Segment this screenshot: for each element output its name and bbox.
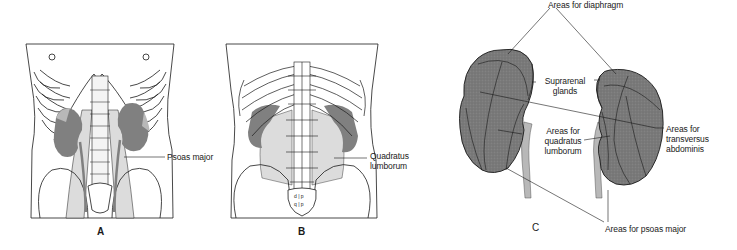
label-areas-quadratus-1: Areas for bbox=[540, 126, 586, 136]
panel-c bbox=[460, 8, 665, 222]
panel-b: d | p q | p bbox=[226, 44, 378, 218]
label-areas-transversus-3: abdominis bbox=[666, 144, 704, 154]
label-areas-transversus-2: transversus bbox=[666, 134, 709, 144]
label-areas-transversus-1: Areas for bbox=[666, 124, 700, 134]
label-psoas-major: Psoas major bbox=[167, 152, 213, 162]
panel-letter-b: B bbox=[298, 226, 305, 237]
panel-letter-a: A bbox=[97, 226, 104, 237]
label-glands: glands bbox=[538, 86, 592, 96]
label-areas-diaphragm: Areas for diaphragm bbox=[548, 0, 623, 10]
anatomy-diagram: d | p q | p bbox=[0, 0, 737, 250]
label-areas-quadratus-2: quadratus bbox=[540, 136, 586, 146]
svg-text:d | p: d | p bbox=[294, 193, 304, 199]
panel-a bbox=[26, 44, 174, 218]
label-lumborum: lumborum bbox=[370, 161, 407, 171]
label-suprarenal: Suprarenal bbox=[538, 76, 592, 86]
label-quadratus: Quadratus bbox=[370, 151, 409, 161]
label-areas-psoas: Areas for psoas major bbox=[605, 224, 686, 234]
panel-letter-c: C bbox=[532, 222, 539, 233]
label-areas-quadratus-3: lumborum bbox=[540, 146, 586, 156]
svg-text:q | p: q | p bbox=[294, 201, 304, 207]
